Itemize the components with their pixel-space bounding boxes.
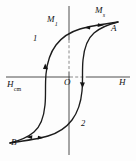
label-point-a: A: [111, 24, 117, 33]
label-branch-2: 2: [81, 119, 85, 128]
label-m1: M1: [47, 15, 58, 26]
hysteresis-loop-figure: M1 Ms A B Hcm H O 1 2: [0, 0, 136, 161]
label-point-b: B: [11, 138, 17, 147]
label-origin: O: [64, 78, 71, 87]
label-h-axis: H: [119, 78, 126, 87]
arrow-bottom-right-pointing: [38, 136, 44, 140]
label-branch-1: 1: [33, 34, 37, 43]
arrow-right-branch-upward: [80, 82, 85, 88]
label-hcm: Hcm: [7, 80, 21, 91]
label-ms: Ms: [95, 6, 105, 17]
